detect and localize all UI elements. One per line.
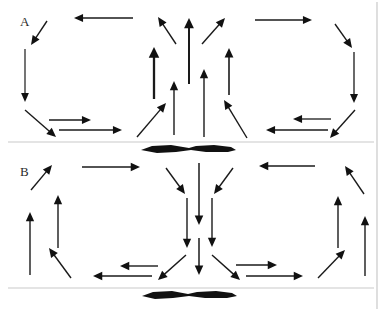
- flow-field-figure: A B: [0, 0, 387, 311]
- figure-background: [0, 0, 387, 311]
- panel-a-label: A: [20, 14, 30, 29]
- figure-root: A B: [0, 0, 387, 311]
- panel-b-label: B: [20, 164, 29, 179]
